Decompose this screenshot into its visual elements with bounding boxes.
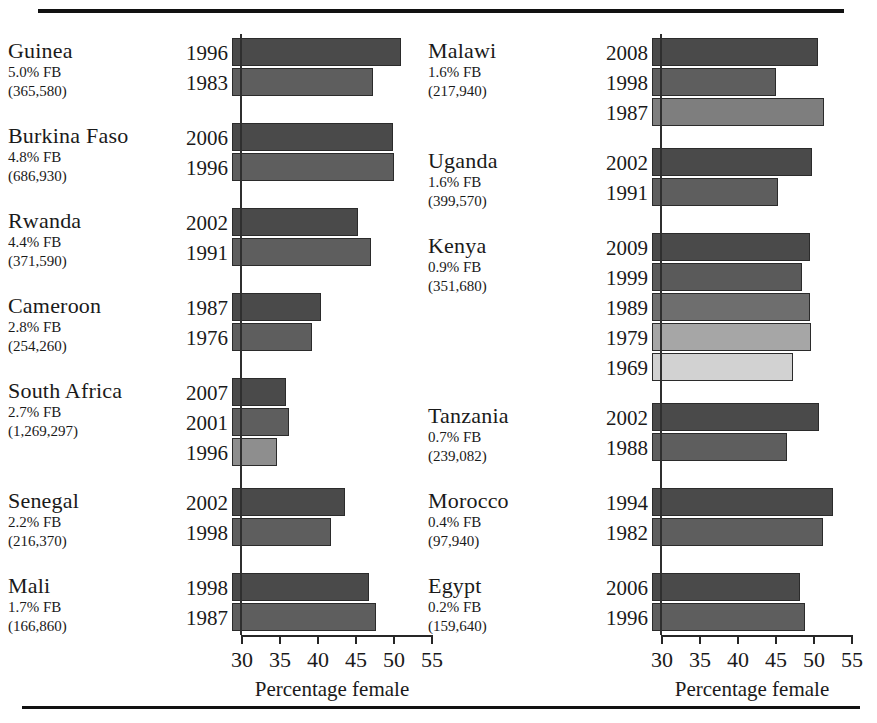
bar [232, 208, 358, 236]
year-label: 1976 [168, 323, 228, 353]
year-label: 2006 [168, 123, 228, 153]
bottom-rule [22, 706, 860, 709]
axis-spine [240, 34, 242, 635]
year-list: 20021991 [168, 208, 228, 268]
bar [652, 488, 833, 516]
bar [652, 403, 819, 431]
axis-tick [317, 635, 319, 644]
axis-tick [355, 635, 357, 644]
axis-line [661, 635, 851, 637]
bar [232, 438, 277, 466]
year-label: 1998 [168, 573, 228, 603]
year-list: 200720011996 [168, 378, 228, 468]
axis-tick-label: 30 [651, 647, 673, 673]
bar [232, 518, 331, 546]
bar [232, 323, 312, 351]
axis-spine [660, 34, 662, 635]
bar [652, 293, 810, 321]
year-label: 1987 [168, 603, 228, 633]
axis-tick-label: 50 [803, 647, 825, 673]
bar [652, 98, 824, 126]
chart-panel-left: Guinea5.0% FB(365,580)19961983Burkina Fa… [8, 28, 438, 688]
year-label: 1987 [168, 293, 228, 323]
bar [232, 123, 393, 151]
axis-tick [813, 635, 815, 644]
bar [652, 263, 802, 291]
year-label: 1969 [588, 353, 648, 383]
bar-group [652, 403, 819, 461]
axis-tick [661, 635, 663, 644]
year-label: 1989 [588, 293, 648, 323]
year-label: 2002 [588, 403, 648, 433]
bar-group [232, 573, 376, 631]
bar [232, 488, 345, 516]
tick-labels: 303540455055 [652, 647, 862, 673]
axis-title: Percentage female [232, 677, 432, 702]
bar [232, 603, 376, 631]
bar [232, 573, 369, 601]
bar [652, 603, 805, 631]
axis-tick-label: 35 [689, 647, 711, 673]
bar-group [232, 123, 394, 181]
bar-group [652, 38, 824, 126]
bar [232, 68, 373, 96]
year-label: 1991 [168, 238, 228, 268]
axis-tick [241, 635, 243, 644]
bar [652, 68, 776, 96]
axis-tick-label: 55 [841, 647, 863, 673]
year-list: 19941982 [588, 488, 648, 548]
year-list: 20061996 [168, 123, 228, 183]
bar [652, 38, 818, 66]
bar [652, 233, 810, 261]
bar [232, 38, 401, 66]
axis-tick [393, 635, 395, 644]
year-label: 1987 [588, 98, 648, 128]
bar [652, 353, 793, 381]
bar [652, 178, 778, 206]
year-list: 20021991 [588, 148, 648, 208]
year-label: 1979 [588, 323, 648, 353]
top-rule [38, 9, 844, 13]
bar-group [232, 488, 345, 546]
bar [652, 148, 812, 176]
axis-tick-label: 30 [231, 647, 253, 673]
bar-group [652, 573, 805, 631]
year-label: 1996 [168, 153, 228, 183]
year-label: 1982 [588, 518, 648, 548]
year-label: 1994 [588, 488, 648, 518]
year-label: 1999 [588, 263, 648, 293]
bar [652, 433, 787, 461]
bar [652, 518, 823, 546]
year-label: 2008 [588, 38, 648, 68]
year-label: 1996 [588, 603, 648, 633]
bar-group [232, 208, 371, 266]
axis-tick [775, 635, 777, 644]
year-list: 20021998 [168, 488, 228, 548]
chart-panels: Guinea5.0% FB(365,580)19961983Burkina Fa… [0, 28, 877, 688]
year-list: 20061996 [588, 573, 648, 633]
year-label: 2002 [588, 148, 648, 178]
axis-tick-label: 40 [307, 647, 329, 673]
bar-group [652, 233, 811, 381]
year-list: 200819981987 [588, 38, 648, 128]
year-list: 19871976 [168, 293, 228, 353]
tick-labels: 303540455055 [232, 647, 442, 673]
bar [232, 153, 394, 181]
bar [232, 238, 371, 266]
bar-group [232, 38, 401, 96]
year-label: 2006 [588, 573, 648, 603]
axis-tick-label: 35 [269, 647, 291, 673]
axis-tick [279, 635, 281, 644]
axis-tick-label: 40 [727, 647, 749, 673]
axis-title: Percentage female [652, 677, 852, 702]
axis-tick-label: 45 [765, 647, 787, 673]
year-label: 1996 [168, 438, 228, 468]
year-label: 1983 [168, 68, 228, 98]
axis-tick-label: 50 [383, 647, 405, 673]
year-label: 1991 [588, 178, 648, 208]
bar-group [652, 488, 833, 546]
year-label: 1996 [168, 38, 228, 68]
year-list: 19981987 [168, 573, 228, 633]
year-label: 1998 [588, 68, 648, 98]
year-list: 19961983 [168, 38, 228, 98]
